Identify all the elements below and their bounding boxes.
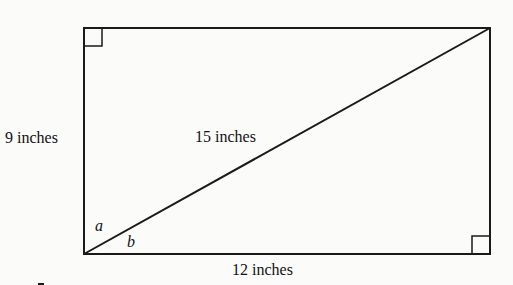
- diagonal-label: 15 inches: [195, 129, 256, 145]
- rectangle-diagram: [0, 0, 513, 285]
- right-angle-marker-bottom-right: [472, 236, 490, 254]
- left-side-label: 9 inches: [5, 130, 58, 146]
- bottom-side-label: 12 inches: [232, 262, 293, 278]
- angle-b-label: b: [127, 234, 135, 250]
- right-angle-marker-top-left: [84, 28, 102, 46]
- angle-a-label: a: [95, 218, 103, 234]
- diagonal-line: [84, 28, 490, 254]
